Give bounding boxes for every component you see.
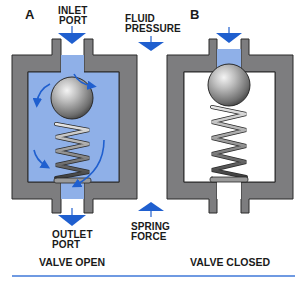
outlet-port-label: OUTLET PORT	[52, 230, 93, 250]
valve-b	[167, 39, 293, 213]
inlet-arrow-icon	[58, 26, 86, 44]
spring-force-label: SPRING FORCE	[131, 222, 170, 242]
outlet-arrow-icon	[58, 208, 86, 226]
inlet-arrow-icon	[216, 27, 242, 43]
valve-b-ball	[208, 64, 250, 106]
fluid-pressure-label: FLUID PRESSURE	[125, 14, 181, 34]
spring-force-arrow-icon	[138, 202, 164, 217]
valve-open-caption: VALVE OPEN	[39, 256, 105, 268]
panel-a-letter: A	[25, 7, 34, 22]
valve-a-ball	[51, 77, 93, 119]
inlet-port-label: INLET PORT	[58, 6, 87, 26]
panel-b-letter: B	[190, 7, 199, 22]
valve-a	[12, 39, 137, 213]
valve-closed-caption: VALVE CLOSED	[190, 256, 270, 268]
fluid-pressure-arrow-icon	[138, 36, 164, 51]
